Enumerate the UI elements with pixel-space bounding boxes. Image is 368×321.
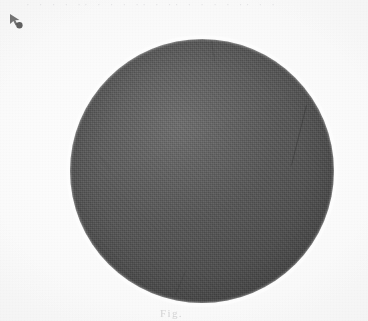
scanned-image-canvas: · · · · ·· · · · ·· · ·· · · · · ·· · · … bbox=[0, 0, 368, 321]
cut-off-header-text: · · · · ·· · · · ·· · ·· · · · · ·· · · bbox=[0, 0, 368, 9]
dark-circular-specimen bbox=[70, 39, 334, 303]
disc-edge-feather bbox=[67, 36, 337, 306]
cropped-caption: Fig. bbox=[160, 308, 246, 319]
arrow-marker-icon bbox=[6, 11, 28, 33]
